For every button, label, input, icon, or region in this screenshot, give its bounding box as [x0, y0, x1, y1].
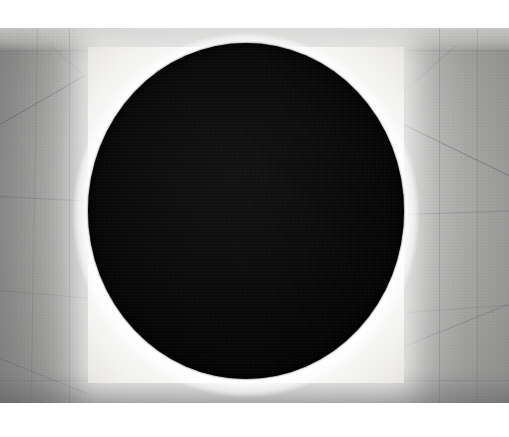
- disc-edge-shadow: [88, 43, 404, 379]
- top-margin: [0, 0, 509, 28]
- black-circle: [88, 43, 404, 379]
- photograph: [0, 28, 509, 403]
- bottom-margin: [0, 403, 509, 437]
- image-canvas: [0, 0, 509, 437]
